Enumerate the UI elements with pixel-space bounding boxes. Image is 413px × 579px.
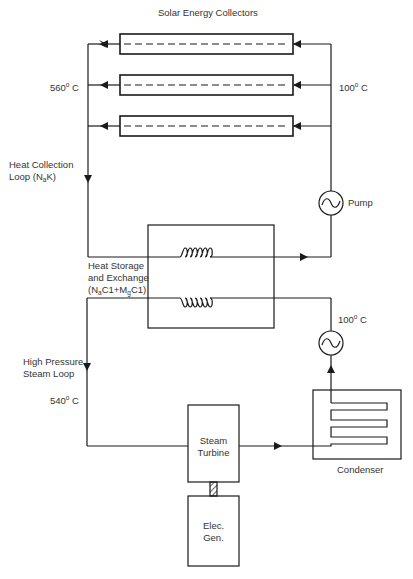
feedwater-pump-icon — [319, 331, 343, 355]
heat-storage-exchanger — [148, 225, 274, 328]
collector-inlet-temp: 100o C — [339, 79, 368, 94]
arrow-up-icon — [327, 365, 335, 373]
steam-temp: 540o C — [50, 392, 79, 407]
condenser-label: Condenser — [337, 464, 383, 476]
heat-collection-loop-label: Heat Collection Loop (NaK) — [9, 159, 73, 186]
condenser — [313, 390, 401, 459]
pump-label: Pump — [348, 197, 373, 209]
arrow-left-icon — [100, 122, 108, 130]
arrow-right-icon — [274, 442, 282, 450]
collector-inlet-header — [293, 44, 331, 191]
diagram-title: Solar Energy Collectors — [158, 7, 258, 19]
arrow-left-icon — [100, 81, 108, 89]
arrow-down-icon — [83, 363, 91, 371]
collector-outlet-temp: 560o C — [50, 79, 79, 94]
steam-loop-label: High Pressure Steam Loop — [23, 356, 83, 380]
solar-collector-1 — [120, 34, 293, 54]
steam-loop-coil — [87, 298, 331, 307]
condensate-temp: 100o C — [338, 311, 367, 326]
collector-outlet-header — [88, 44, 120, 257]
arrow-left-icon — [293, 122, 301, 130]
solar-collector-2 — [120, 75, 293, 95]
arrow-left-icon — [293, 81, 301, 89]
arrow-right-icon — [300, 253, 308, 261]
heat-storage-label: Heat Storage and Exchange (NaC1+MgC1) — [88, 260, 149, 299]
steam-turbine-label: Steam Turbine — [188, 435, 239, 459]
solar-collector-3 — [120, 116, 293, 136]
turbine-shaft — [210, 482, 217, 496]
generator-label: Elec. Gen. — [188, 520, 239, 544]
arrow-down-icon — [84, 175, 92, 183]
collection-loop-coil — [88, 248, 331, 257]
pump-icon — [319, 191, 343, 215]
arrow-left-icon — [293, 40, 301, 48]
